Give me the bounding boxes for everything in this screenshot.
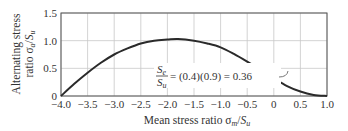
y-tick-label: 1.5 bbox=[43, 7, 57, 19]
y-tick-label: 0.5 bbox=[43, 62, 57, 74]
x-tick-label: −1.0 bbox=[211, 98, 231, 110]
x-tick-label: 0 bbox=[271, 98, 277, 110]
y-axis-label: Alternating stress ratio σa/Su bbox=[10, 13, 37, 94]
x-tick-label: −0.5 bbox=[237, 98, 257, 110]
x-axis-label: Mean stress ratio σm/Su bbox=[144, 114, 250, 128]
x-tick-label: 1.0 bbox=[320, 98, 334, 110]
y-axis-label-line1: Alternating stress bbox=[10, 13, 23, 94]
x-tick-label: −1.5 bbox=[184, 98, 204, 110]
x-tick-label: −3.0 bbox=[104, 98, 124, 110]
annotation: Se Su = (0.4)(0.9) = 0.36 bbox=[154, 63, 288, 90]
x-tick-label: −2.0 bbox=[157, 98, 177, 110]
chart: −4.0−3.5−3.0−2.5−2.0−1.5−1.0−0.500.51.0 … bbox=[0, 0, 348, 131]
y-axis-label-line2: ratio σa/Su bbox=[23, 30, 37, 77]
y-tick-label: 1.0 bbox=[43, 35, 57, 47]
annotation-expression: = (0.4)(0.9) = 0.36 bbox=[170, 70, 253, 83]
x-axis-ticks: −4.0−3.5−3.0−2.5−2.0−1.5−1.0−0.500.51.0 bbox=[51, 98, 334, 110]
x-tick-label: −2.5 bbox=[131, 98, 151, 110]
y-axis-ticks: 00.51.01.5 bbox=[43, 7, 57, 102]
x-tick-label: −3.5 bbox=[78, 98, 98, 110]
y-tick-label: 0 bbox=[52, 90, 58, 102]
x-tick-label: 0.5 bbox=[294, 98, 308, 110]
